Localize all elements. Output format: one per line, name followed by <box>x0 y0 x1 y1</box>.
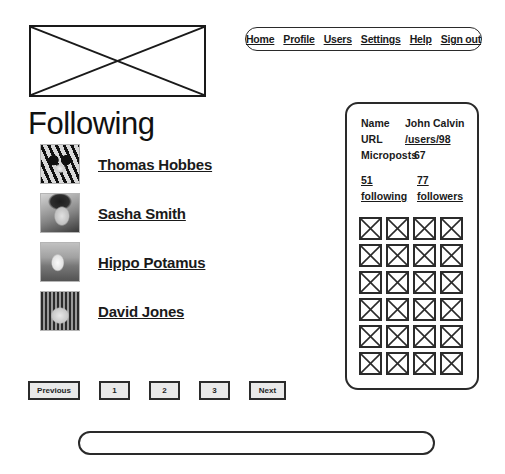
avatar <box>40 242 80 282</box>
micropost-thumbnail[interactable] <box>413 217 436 240</box>
stat-row-microposts: Microposts 67 <box>361 147 473 163</box>
micropost-thumbnail[interactable] <box>440 325 463 348</box>
image-placeholder-icon <box>361 246 380 265</box>
following-user-list: Thomas Hobbes Sasha Smith Hippo Potamus … <box>40 144 280 340</box>
image-placeholder-icon <box>31 27 204 95</box>
followers-count[interactable]: 77 <box>417 172 473 189</box>
nav-link-sign-out[interactable]: Sign out <box>441 33 481 45</box>
stat-label-microposts: Microposts <box>361 147 414 163</box>
image-placeholder-icon <box>442 219 461 238</box>
micropost-thumbnail[interactable] <box>440 298 463 321</box>
following-stat[interactable]: 51 following <box>361 172 417 204</box>
image-placeholder-icon <box>361 300 380 319</box>
followers-label[interactable]: followers <box>417 189 473 204</box>
image-placeholder-icon <box>415 246 434 265</box>
micropost-thumbnail[interactable] <box>413 325 436 348</box>
following-count[interactable]: 51 <box>361 172 417 189</box>
image-placeholder-icon <box>442 327 461 346</box>
stat-row-name: Name John Calvin <box>361 115 473 131</box>
image-placeholder-icon <box>388 219 407 238</box>
micropost-thumbnail[interactable] <box>413 298 436 321</box>
micropost-thumbnail[interactable] <box>359 244 382 267</box>
list-item[interactable]: Thomas Hobbes <box>40 144 280 184</box>
list-item[interactable]: Hippo Potamus <box>40 242 280 282</box>
pagination-page-1-button[interactable]: 1 <box>99 381 130 400</box>
list-item[interactable]: David Jones <box>40 291 280 331</box>
micropost-thumbnail[interactable] <box>386 298 409 321</box>
stat-label-name: Name <box>361 115 405 131</box>
stat-label-url: URL <box>361 131 405 147</box>
page-title: Following <box>28 106 154 142</box>
nav-link-help[interactable]: Help <box>410 33 432 45</box>
nav-link-settings[interactable]: Settings <box>361 33 401 45</box>
image-placeholder-icon <box>442 246 461 265</box>
image-placeholder-icon <box>442 354 461 373</box>
image-placeholder-icon <box>388 300 407 319</box>
micropost-thumbnail[interactable] <box>359 217 382 240</box>
image-placeholder-icon <box>415 219 434 238</box>
followers-stat[interactable]: 77 followers <box>417 172 473 204</box>
micropost-thumbnail[interactable] <box>386 325 409 348</box>
micropost-thumbnail[interactable] <box>440 217 463 240</box>
user-sidebar-panel: Name John Calvin URL /users/98 Micropost… <box>345 102 479 390</box>
image-placeholder-icon <box>361 273 380 292</box>
micropost-thumbnail[interactable] <box>440 244 463 267</box>
pagination-previous-button[interactable]: Previous <box>28 381 80 400</box>
image-placeholder-icon <box>388 246 407 265</box>
avatar <box>40 193 80 233</box>
micropost-thumbnail[interactable] <box>359 298 382 321</box>
avatar <box>40 291 80 331</box>
pagination-page-3-button[interactable]: 3 <box>199 381 230 400</box>
micropost-thumbnail-grid <box>359 217 469 375</box>
image-placeholder-icon <box>361 354 380 373</box>
nav-link-profile[interactable]: Profile <box>283 33 314 45</box>
footer-bar <box>78 431 435 455</box>
user-name-link[interactable]: David Jones <box>98 303 184 320</box>
pagination-page-2-button[interactable]: 2 <box>149 381 180 400</box>
image-placeholder-icon <box>442 273 461 292</box>
following-label[interactable]: following <box>361 189 417 204</box>
pagination: Previous 1 2 3 Next <box>28 381 286 400</box>
micropost-thumbnail[interactable] <box>413 352 436 375</box>
micropost-thumbnail[interactable] <box>386 352 409 375</box>
stat-row-url: URL /users/98 <box>361 131 473 147</box>
image-placeholder-icon <box>415 300 434 319</box>
micropost-thumbnail[interactable] <box>359 271 382 294</box>
image-placeholder-icon <box>388 354 407 373</box>
avatar <box>40 144 80 184</box>
image-placeholder-icon <box>388 327 407 346</box>
micropost-thumbnail[interactable] <box>386 244 409 267</box>
list-item[interactable]: Sasha Smith <box>40 193 280 233</box>
image-placeholder-icon <box>361 327 380 346</box>
nav-link-home[interactable]: Home <box>246 33 274 45</box>
logo-placeholder[interactable] <box>29 25 206 97</box>
user-stats: Name John Calvin URL /users/98 Micropost… <box>361 115 473 163</box>
user-name-link[interactable]: Sasha Smith <box>98 205 186 222</box>
stat-value-microposts: 67 <box>414 147 426 163</box>
nav-link-users[interactable]: Users <box>324 33 352 45</box>
follow-stats: 51 following 77 followers <box>361 172 473 204</box>
micropost-thumbnail[interactable] <box>359 352 382 375</box>
micropost-thumbnail[interactable] <box>440 352 463 375</box>
micropost-thumbnail[interactable] <box>386 217 409 240</box>
stat-value-name: John Calvin <box>405 115 465 131</box>
image-placeholder-icon <box>388 273 407 292</box>
micropost-thumbnail[interactable] <box>413 271 436 294</box>
micropost-thumbnail[interactable] <box>386 271 409 294</box>
main-navigation: Home Profile Users Settings Help Sign ou… <box>245 27 482 51</box>
image-placeholder-icon <box>442 300 461 319</box>
image-placeholder-icon <box>415 354 434 373</box>
user-name-link[interactable]: Thomas Hobbes <box>98 156 212 173</box>
micropost-thumbnail[interactable] <box>359 325 382 348</box>
pagination-next-button[interactable]: Next <box>249 381 286 400</box>
micropost-thumbnail[interactable] <box>440 271 463 294</box>
image-placeholder-icon <box>415 327 434 346</box>
image-placeholder-icon <box>361 219 380 238</box>
image-placeholder-icon <box>415 273 434 292</box>
user-name-link[interactable]: Hippo Potamus <box>98 254 205 271</box>
micropost-thumbnail[interactable] <box>413 244 436 267</box>
stat-value-url-link[interactable]: /users/98 <box>405 131 451 147</box>
